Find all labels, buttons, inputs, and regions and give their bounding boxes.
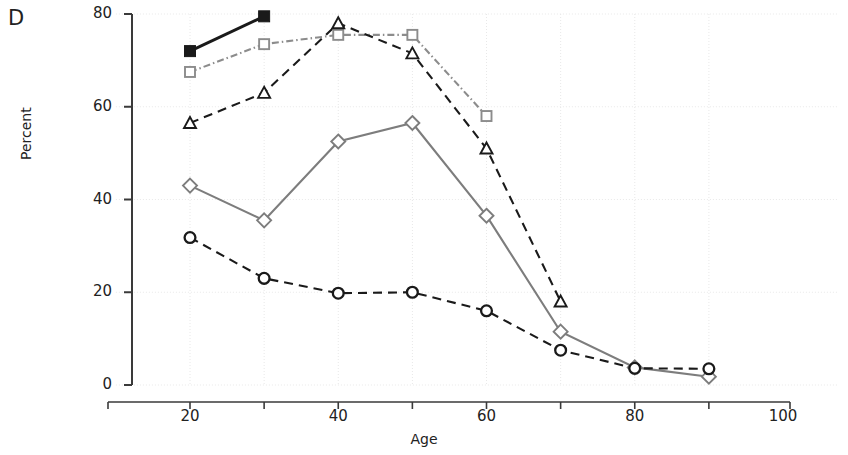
- data-point-open-circle-dashed-70: [555, 345, 566, 356]
- data-point-open-triangle-dashed-30: [258, 87, 270, 98]
- series-lines: [190, 16, 709, 376]
- x-tick-label-100: 100: [753, 409, 813, 424]
- series-line-open-circle-dashed: [190, 238, 709, 369]
- data-point-open-circle-dashed-30: [259, 273, 270, 284]
- data-point-open-diamond-solid-70: [554, 325, 568, 339]
- y-tick-label-40: 40: [64, 192, 112, 207]
- data-point-open-triangle-dashed-40: [332, 17, 344, 28]
- chart-figure: D Percent Age 020406080 20406080100: [0, 0, 848, 455]
- data-point-open-circle-dashed-60: [481, 305, 492, 316]
- series-line-open-diamond-solid: [190, 123, 709, 377]
- data-point-open-triangle-dashed-20: [184, 117, 196, 128]
- series-line-open-triangle-dashed: [190, 23, 561, 301]
- y-tick-label-60: 60: [64, 99, 112, 114]
- data-point-filled-square-solid-30: [259, 11, 270, 22]
- gridlines: [116, 14, 838, 385]
- x-tick-label-20: 20: [160, 409, 220, 424]
- data-point-open-circle-dashed-80: [629, 363, 640, 374]
- data-point-open-triangle-dashed-50: [406, 47, 418, 58]
- series-markers: [183, 11, 716, 384]
- data-point-open-square-dashdot-20: [185, 67, 195, 77]
- data-point-open-circle-dashed-90: [703, 363, 714, 374]
- series-line-filled-square-solid: [190, 16, 264, 51]
- y-tick-label-0: 0: [64, 377, 112, 392]
- x-tick-label-60: 60: [457, 409, 517, 424]
- data-point-open-circle-dashed-40: [333, 288, 344, 299]
- data-point-open-circle-dashed-20: [185, 232, 196, 243]
- x-tick-label-80: 80: [605, 409, 665, 424]
- data-point-filled-square-solid-20: [185, 46, 196, 57]
- data-point-open-circle-dashed-50: [407, 287, 418, 298]
- x-tick-label-40: 40: [308, 409, 368, 424]
- data-point-open-triangle-dashed-70: [555, 296, 567, 307]
- plot-area: [0, 0, 848, 455]
- data-point-open-diamond-solid-20: [183, 179, 197, 193]
- data-point-open-square-dashdot-60: [482, 111, 492, 121]
- data-point-open-square-dashdot-40: [333, 30, 343, 40]
- data-point-open-square-dashdot-50: [407, 30, 417, 40]
- y-tick-label-80: 80: [64, 6, 112, 21]
- axis-lines: [108, 14, 790, 409]
- y-tick-label-20: 20: [64, 284, 112, 299]
- data-point-open-square-dashdot-30: [259, 39, 269, 49]
